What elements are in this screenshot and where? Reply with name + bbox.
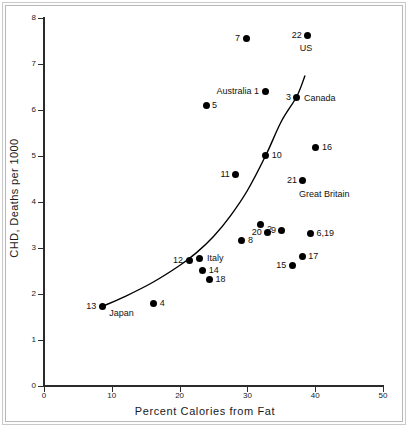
point-label: Italy [207, 254, 224, 263]
x-axis-line [43, 385, 384, 387]
point-label-us: US [300, 44, 313, 53]
y-tick-label: 6 [20, 106, 36, 114]
y-tick-mark [38, 18, 43, 19]
point-label: 18 [215, 275, 225, 284]
y-tick-mark [38, 340, 43, 341]
point-label: 13 [86, 302, 96, 311]
y-tick-label: 4 [20, 198, 36, 206]
scatter-point [206, 276, 213, 283]
point-label: Great Britain [299, 190, 350, 199]
y-tick-label: 8 [20, 14, 36, 22]
x-axis-title: Percent Calories from Fat [0, 405, 410, 417]
scatter-point [299, 253, 306, 260]
scatter-point [203, 102, 210, 109]
scatter-point [293, 94, 300, 101]
y-tick-label: 0 [20, 382, 36, 390]
point-label: 21 [287, 176, 297, 185]
y-tick-label: 7 [20, 60, 36, 68]
scatter-point [262, 88, 269, 95]
point-label: 9 [271, 226, 276, 235]
y-axis-title: CHD, Deaths per 1000 [8, 98, 20, 298]
scatter-point [243, 35, 250, 42]
y-tick-mark [38, 294, 43, 295]
y-tick-label: 1 [20, 336, 36, 344]
scatter-point [289, 262, 296, 269]
x-tick-label: 10 [102, 392, 122, 400]
y-tick-label: 3 [20, 244, 36, 252]
point-label: 15 [276, 261, 286, 270]
point-label: Australia 1 [216, 87, 259, 96]
point-label: 3 [286, 93, 291, 102]
point-label: 16 [322, 143, 332, 152]
point-label: 11 [221, 170, 230, 179]
y-axis-line [43, 17, 45, 387]
point-label: 10 [272, 151, 282, 160]
y-tick-mark [38, 386, 43, 387]
scatter-point [186, 257, 193, 264]
scatter-point [304, 32, 311, 39]
y-tick-mark [38, 156, 43, 157]
point-label: 22 [292, 31, 302, 40]
point-label: 6,19 [316, 229, 334, 238]
point-label: Japan [109, 309, 134, 318]
chart-figure: 012345678 01020304050 Australia 123Canad… [0, 0, 410, 428]
point-label: 20 [252, 228, 262, 237]
y-tick-mark [38, 248, 43, 249]
figure-frame-inner [5, 5, 403, 422]
scatter-point [150, 300, 157, 307]
y-tick-label: 2 [20, 290, 36, 298]
point-label: 5 [212, 101, 217, 110]
x-tick-label: 50 [373, 392, 393, 400]
point-label: 17 [308, 252, 318, 261]
x-tick-label: 30 [237, 392, 257, 400]
point-label: 12 [173, 256, 183, 265]
y-tick-mark [38, 202, 43, 203]
x-tick-label: 20 [170, 392, 190, 400]
point-label: 4 [160, 299, 165, 308]
x-tick-label: 0 [34, 392, 54, 400]
y-tick-label: 5 [20, 152, 36, 160]
y-tick-mark [38, 110, 43, 111]
scatter-point [99, 303, 106, 310]
point-label: 7 [235, 34, 240, 43]
y-tick-mark [38, 64, 43, 65]
point-label: Canada [304, 94, 336, 103]
x-tick-label: 40 [305, 392, 325, 400]
